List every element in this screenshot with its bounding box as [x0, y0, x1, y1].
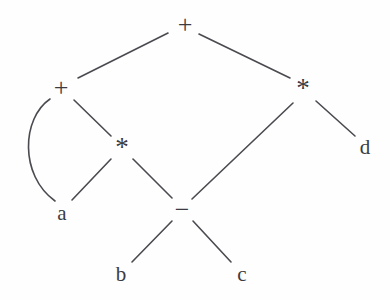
node-star-mid: *: [115, 134, 129, 161]
node-leaf-b: b: [116, 264, 127, 285]
edge-group: [28, 33, 355, 262]
dag-edges-canvas: [0, 0, 390, 300]
edge-root-to-left-plus: [78, 33, 168, 78]
edge-root-to-right-star: [199, 34, 290, 78]
node-leaf-a: a: [57, 203, 66, 224]
node-star-right: *: [296, 75, 310, 102]
expression-dag-figure: + + * * − a b c d: [0, 0, 390, 300]
edge-left-plus-to-a: [28, 99, 55, 201]
edge-right-star-to-d: [316, 101, 355, 136]
node-minus: −: [175, 197, 190, 223]
node-plus-root: +: [178, 12, 193, 38]
node-leaf-c: c: [237, 264, 246, 285]
edge-left-plus-to-star: [74, 100, 111, 136]
edge-minus-to-b: [132, 221, 172, 262]
edge-mid-star-to-a: [72, 159, 111, 200]
node-plus-left: +: [54, 75, 69, 101]
node-leaf-d: d: [360, 137, 371, 158]
edge-right-star-to-minus: [192, 103, 293, 199]
edge-minus-to-c: [193, 221, 231, 262]
edge-mid-star-to-minus: [133, 159, 172, 198]
